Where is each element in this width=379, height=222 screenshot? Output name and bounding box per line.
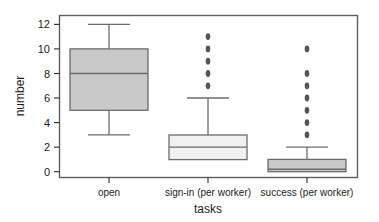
outlier-point <box>305 46 310 53</box>
outlier-point <box>206 58 211 65</box>
y-tick-label-8: 8 <box>44 68 50 80</box>
y-tick-label-2: 2 <box>44 141 50 153</box>
y-tick-label-4: 4 <box>44 117 50 129</box>
y-axis-ticks <box>54 24 60 171</box>
y-tick-label-12: 12 <box>38 18 50 30</box>
outlier-point <box>305 70 310 77</box>
outlier-point <box>206 70 211 77</box>
outlier-point <box>305 119 310 126</box>
outlier-point <box>305 82 310 89</box>
y-tick-label-6: 6 <box>44 92 50 104</box>
boxplot-figure: 12 10 8 6 4 2 0 number <box>0 0 379 222</box>
boxplot-canvas: 12 10 8 6 4 2 0 number <box>0 0 379 222</box>
outlier-point <box>305 95 310 102</box>
outlier-point <box>305 131 310 138</box>
outlier-point <box>206 33 211 40</box>
box-rect-open <box>70 49 148 110</box>
outlier-point <box>305 107 310 114</box>
outlier-point <box>206 82 211 89</box>
x-tick-label-open: open <box>98 187 120 198</box>
x-tick-label-signin: sign-in (per worker) <box>165 187 251 198</box>
y-tick-label-0: 0 <box>44 166 50 178</box>
y-axis-title: number <box>13 76 27 117</box>
outlier-point <box>206 46 211 53</box>
x-tick-label-success: success (per worker) <box>261 187 354 198</box>
x-axis-ticks <box>109 178 307 184</box>
x-axis-title: tasks <box>194 202 222 216</box>
y-tick-label-10: 10 <box>38 43 50 55</box>
